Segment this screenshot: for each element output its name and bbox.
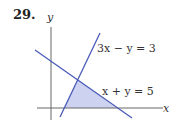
equation-label-2: x + y = 5	[102, 85, 154, 98]
x-axis-label: x	[163, 102, 170, 115]
equation-label-1: 3x − y = 3	[97, 42, 156, 55]
y-axis-label: y	[46, 11, 54, 24]
graph: y x 3x − y = 3 x + y = 5	[0, 0, 176, 126]
